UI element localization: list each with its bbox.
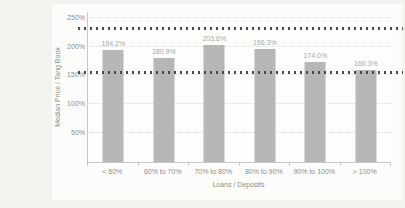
y-axis-tick-label: 250% (67, 14, 85, 21)
bar-slot: 174.0% (290, 12, 341, 162)
bar-value-label: 174.0% (303, 52, 327, 59)
bar-series: 194.2%180.9%203.6%196.3%174.0%160.3% (88, 12, 391, 162)
bar-value-label: 196.3% (253, 39, 277, 46)
y-axis-ticks: 50%100%150%200%250% (55, 12, 85, 162)
bar (254, 49, 275, 162)
x-axis-tick (239, 163, 240, 166)
x-axis-category-label: > 100% (340, 168, 391, 175)
x-axis-category-label: < 60% (87, 168, 138, 175)
x-axis-tick (289, 163, 290, 166)
x-axis-category-label: 90% to 100% (289, 168, 340, 175)
y-axis-tick-label: 200% (67, 43, 85, 50)
x-axis-category-label: 80% to 90% (239, 168, 290, 175)
x-axis-tick (340, 163, 341, 166)
bar (103, 50, 124, 162)
bar-value-label: 160.3% (354, 60, 378, 67)
bar-value-label: 203.6% (202, 35, 226, 42)
x-axis-category-labels: < 60%60% to 70%70% to 80%80% to 90%90% t… (87, 168, 390, 175)
y-axis-tick-label: 100% (67, 100, 85, 107)
bar (305, 62, 326, 162)
x-axis-tick-marks (87, 163, 390, 166)
x-axis-tick (138, 163, 139, 166)
y-axis-tick-label: 50% (71, 129, 85, 136)
reference-line (78, 27, 403, 30)
bar-slot: 196.3% (240, 12, 291, 162)
x-axis-category-label: 60% to 70% (138, 168, 189, 175)
bar (355, 70, 376, 162)
x-axis-category-label: 70% to 80% (188, 168, 239, 175)
plot-area: 194.2%180.9%203.6%196.3%174.0%160.3% (87, 12, 391, 163)
x-axis-tick (390, 163, 391, 166)
reference-line (78, 71, 403, 74)
bar-value-label: 194.2% (101, 40, 125, 47)
x-axis-tick (188, 163, 189, 166)
bar-slot: 194.2% (88, 12, 139, 162)
bar-slot: 160.3% (341, 12, 392, 162)
x-axis-tick (87, 163, 88, 166)
x-axis-title: Loans / Deposits (87, 181, 390, 188)
bar-slot: 180.9% (139, 12, 190, 162)
bar-value-label: 180.9% (152, 48, 176, 55)
bar-slot: 203.6% (189, 12, 240, 162)
bar (204, 45, 225, 162)
